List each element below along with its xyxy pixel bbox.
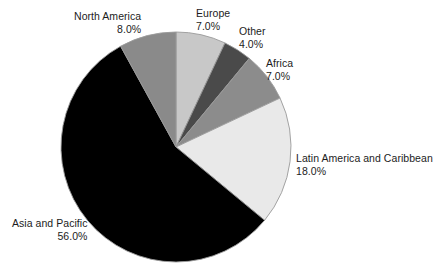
- pie-label-other: Other 4.0%: [239, 25, 266, 50]
- pie-label-latin-america-and-caribbean-value: 18.0%: [296, 165, 433, 178]
- pie-label-europe-value: 7.0%: [196, 20, 230, 33]
- pie-label-africa-value: 7.0%: [266, 70, 293, 83]
- pie-label-north-america-value: 8.0%: [74, 23, 141, 36]
- pie-label-asia-and-pacific: Asia and Pacific 56.0%: [12, 217, 88, 242]
- pie-label-asia-and-pacific-name: Asia and Pacific: [12, 217, 88, 230]
- pie-label-latin-america-and-caribbean: Latin America and Caribbean 18.0%: [296, 152, 433, 177]
- pie-label-other-name: Other: [239, 25, 266, 38]
- pie-label-north-america-name: North America: [74, 10, 141, 23]
- pie-label-asia-and-pacific-value: 56.0%: [12, 230, 88, 243]
- pie-label-latin-america-and-caribbean-name: Latin America and Caribbean: [296, 152, 433, 165]
- pie-label-other-value: 4.0%: [239, 38, 266, 51]
- pie-label-africa: Africa 7.0%: [266, 57, 293, 82]
- pie-label-europe-name: Europe: [196, 7, 230, 20]
- pie-label-africa-name: Africa: [266, 57, 293, 70]
- pie-label-north-america: North America 8.0%: [74, 10, 141, 35]
- pie-chart-figure: North America 8.0% Europe 7.0% Other 4.0…: [0, 0, 442, 278]
- pie-label-europe: Europe 7.0%: [196, 7, 230, 32]
